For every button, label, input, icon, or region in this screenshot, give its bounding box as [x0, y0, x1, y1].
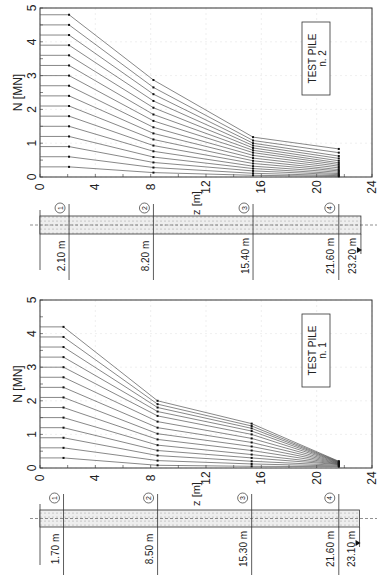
- data-point-marker: [152, 132, 154, 134]
- data-point-marker: [63, 346, 65, 348]
- data-point-marker: [63, 396, 65, 398]
- data-point-marker: [157, 438, 159, 440]
- data-point-marker: [68, 24, 70, 26]
- data-point-marker: [152, 120, 154, 122]
- series-line: [40, 45, 339, 158]
- data-point-marker: [251, 463, 253, 465]
- y-tick-label: 1: [25, 140, 39, 147]
- series-line: [40, 397, 339, 463]
- series-line: [40, 167, 339, 176]
- gauge-depth-label: 21.60 m: [325, 531, 336, 567]
- data-point-marker: [251, 454, 253, 456]
- gauge-depth-label: 15.30 m: [238, 531, 249, 567]
- data-point-marker: [251, 430, 253, 432]
- data-point-marker: [68, 85, 70, 87]
- data-point-marker: [252, 154, 254, 156]
- pile-diagram-2: 12.10 m28.20 m315.40 m421.60 m23.20 m: [30, 203, 377, 280]
- x-tick-label: 8: [144, 183, 158, 190]
- series-line: [40, 55, 339, 160]
- data-point-marker: [68, 105, 70, 107]
- gauge-depth-label: 1.70 m: [50, 534, 61, 565]
- y-axis-label: N [MN]: [11, 74, 25, 111]
- data-point-marker: [157, 444, 159, 446]
- pile-toe-depth-label: 23.20 m: [347, 238, 358, 274]
- legend-pile-number: n. 1: [317, 342, 328, 359]
- gauge-depth-label: 8.50 m: [144, 534, 155, 565]
- x-tick-label: 4: [88, 183, 102, 190]
- data-point-marker: [252, 174, 254, 176]
- series-line: [40, 76, 339, 165]
- y-tick-label: 0: [25, 464, 39, 471]
- gauge-number: 3: [241, 206, 248, 210]
- data-point-marker: [157, 427, 159, 429]
- x-tick-label: 24: [365, 471, 379, 485]
- y-tick-label: 0: [25, 173, 39, 180]
- y-tick-label: 5: [25, 296, 39, 303]
- y-tick-label: 4: [25, 38, 39, 45]
- x-tick-label: 20: [310, 180, 324, 194]
- y-tick-label: 3: [25, 364, 39, 371]
- x-tick-label: 24: [365, 180, 379, 194]
- data-point-marker: [157, 400, 159, 402]
- data-point-marker: [251, 465, 253, 467]
- data-point-marker: [152, 86, 154, 88]
- data-point-marker: [63, 376, 65, 378]
- data-point-marker: [152, 145, 154, 147]
- data-point-marker: [252, 157, 254, 159]
- data-point-marker: [68, 34, 70, 36]
- gauge-number: 4: [326, 206, 333, 210]
- data-point-marker: [152, 79, 154, 81]
- data-point-marker: [252, 170, 254, 172]
- y-tick-label: 1: [25, 431, 39, 438]
- data-point-marker: [63, 447, 65, 449]
- y-tick-label: 5: [25, 4, 39, 11]
- gauge-depth-label: 8.20 m: [140, 241, 151, 272]
- data-point-marker: [251, 425, 253, 427]
- data-point-marker: [152, 107, 154, 109]
- x-tick-label: 16: [254, 180, 268, 194]
- data-point-marker: [252, 162, 254, 164]
- data-point-marker: [68, 75, 70, 77]
- data-point-marker: [251, 460, 253, 462]
- data-point-marker: [68, 115, 70, 117]
- pile-toe-depth-label: 23.10 m: [346, 531, 357, 567]
- series-line: [40, 408, 339, 464]
- data-point-marker: [68, 166, 70, 168]
- data-point-marker: [338, 148, 340, 150]
- pile-diagram-1: 11.70 m28.50 m315.30 m421.60 m23.10 m: [30, 493, 377, 575]
- x-axis-label: z [m]: [190, 191, 202, 215]
- gauge-number: 2: [141, 206, 148, 210]
- data-point-marker: [157, 403, 159, 405]
- data-point-marker: [251, 433, 253, 435]
- data-point-marker: [252, 149, 254, 151]
- data-point-marker: [252, 147, 254, 149]
- data-point-marker: [251, 445, 253, 447]
- x-tick-label: 0: [33, 183, 47, 190]
- series-line: [40, 35, 339, 156]
- data-point-marker: [63, 336, 65, 338]
- data-point-marker: [252, 145, 254, 147]
- series-line: [40, 65, 339, 162]
- series-line: [40, 357, 339, 462]
- data-point-marker: [63, 407, 65, 409]
- data-point-marker: [252, 139, 254, 141]
- data-point-marker: [152, 156, 154, 158]
- data-point-marker: [251, 437, 253, 439]
- data-point-marker: [63, 437, 65, 439]
- data-point-marker: [63, 417, 65, 419]
- gauge-number: 1: [57, 206, 64, 210]
- data-point-marker: [152, 100, 154, 102]
- data-point-marker: [68, 125, 70, 127]
- data-point-marker: [338, 152, 340, 154]
- gauge-number: 3: [239, 496, 246, 500]
- data-point-marker: [63, 366, 65, 368]
- data-point-marker: [252, 160, 254, 162]
- data-point-marker: [252, 168, 254, 170]
- data-point-marker: [152, 167, 154, 169]
- data-point-marker: [152, 161, 154, 163]
- data-point-marker: [152, 126, 154, 128]
- y-tick-label: 4: [25, 330, 39, 337]
- y-axis-label: N [MN]: [11, 365, 25, 402]
- data-point-marker: [251, 450, 253, 452]
- data-point-marker: [338, 155, 340, 157]
